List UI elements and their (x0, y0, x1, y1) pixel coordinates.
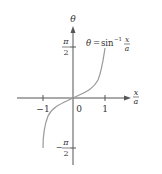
y-tick-label-neg-pi-den: 2 (63, 149, 68, 158)
y-tick-label-pi-den: 2 (63, 48, 68, 57)
x-tick-label-neg1: −1 (36, 104, 49, 114)
equation-lhs: θ (86, 38, 91, 48)
x-tick-label-1: 1 (102, 104, 108, 114)
y-axis-label: θ (70, 14, 76, 24)
y-tick-label-neg-pi-num: π (62, 138, 69, 147)
inverse-sine-chart: −1 0 1 x a θ π 2 − π 2 θ = sin −1 x a (0, 0, 162, 174)
x-axis-label-den: a (134, 97, 139, 106)
equation-frac-den: a (125, 44, 129, 53)
equation-frac-num: x (125, 35, 130, 44)
y-axis-arrow-icon (71, 26, 76, 33)
y-tick-label-neg-sign: − (56, 143, 63, 152)
equation-equals: = (93, 38, 100, 48)
x-tick-label-0: 0 (76, 104, 82, 114)
equation-fn: sin (101, 38, 114, 48)
y-tick-label-pi-num: π (62, 37, 69, 46)
equation-sup: −1 (114, 36, 122, 42)
x-axis-label-num: x (134, 88, 139, 97)
x-axis-arrow-icon (124, 96, 131, 101)
